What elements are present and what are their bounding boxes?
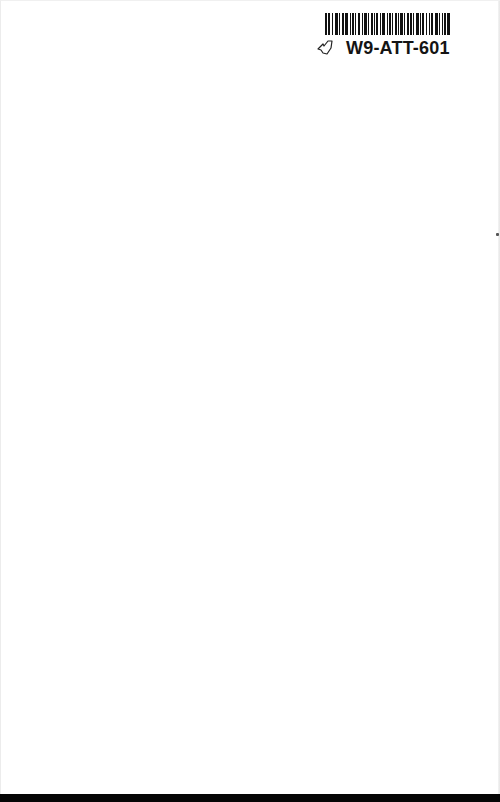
leaf-outline-icon <box>316 40 336 56</box>
sticker-label-row: W9-ATT-601 <box>316 37 450 59</box>
blank-page: W9-ATT-601 <box>0 0 500 794</box>
sticker-code: W9-ATT-601 <box>346 38 450 59</box>
barcode <box>325 13 485 35</box>
barcode-gap <box>450 13 452 35</box>
page-speck <box>496 233 499 236</box>
barcode-sticker: W9-ATT-601 <box>304 5 497 55</box>
bottom-black-band <box>0 794 500 802</box>
